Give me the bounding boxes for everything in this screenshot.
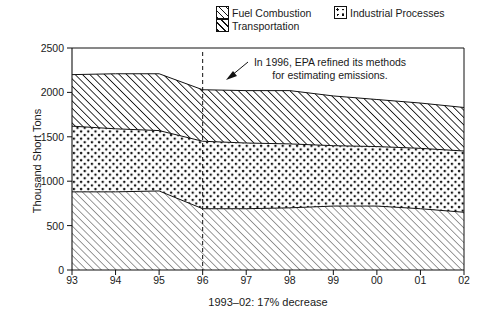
- x-tick-label: 02: [449, 274, 479, 286]
- chart-figure: Fuel Combustion Industrial Processes Tra…: [0, 0, 499, 323]
- chart-annotation: In 1996, EPA refined its methods for est…: [232, 56, 428, 81]
- x-tick-label: 96: [188, 274, 218, 286]
- x-tick-label: 97: [231, 274, 261, 286]
- x-tick-label: 99: [318, 274, 348, 286]
- annotation-line-1: In 1996, EPA refined its methods: [232, 56, 428, 69]
- annotation-line-2: for estimating emissions.: [232, 69, 428, 82]
- x-tick-label: 98: [275, 274, 305, 286]
- chart-caption: 1993–02: 17% decrease: [72, 296, 464, 308]
- x-tick-label: 00: [362, 274, 392, 286]
- x-tick-label: 01: [405, 274, 435, 286]
- x-tick-label: 93: [57, 274, 87, 286]
- x-tick-label: 94: [101, 274, 131, 286]
- x-tick-label: 95: [144, 274, 174, 286]
